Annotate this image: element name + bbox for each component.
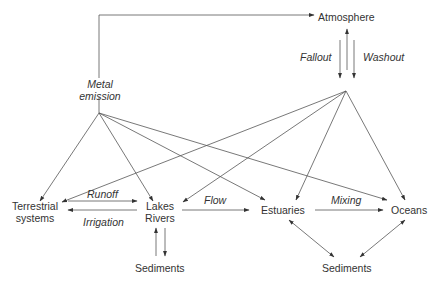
node-oceans: Oceans <box>391 204 427 216</box>
metal-cycle-diagram: Atmosphere Fallout Washout Metal emissio… <box>0 0 438 283</box>
diagram-edges <box>0 0 438 283</box>
edge-label-washout: Washout <box>363 51 404 63</box>
node-metal-emission-line2: emission <box>72 90 128 102</box>
node-estuaries: Estuaries <box>261 204 305 216</box>
edge-label-mixing: Mixing <box>331 194 361 206</box>
edge-label-irrigation: Irrigation <box>83 216 124 228</box>
node-atmosphere: Atmosphere <box>318 11 375 23</box>
node-lakes-line2: Rivers <box>140 212 180 224</box>
node-terrestrial-line1: Terrestrial <box>6 200 64 212</box>
node-metal-emission-line1: Metal <box>72 78 128 90</box>
edge-label-fallout: Fallout <box>300 51 332 63</box>
node-sediments-estuaries-oceans: Sediments <box>322 262 372 274</box>
node-lakes-line1: Lakes <box>140 200 180 212</box>
node-sediments-lakes: Sediments <box>135 262 185 274</box>
edge-label-flow: Flow <box>204 194 226 206</box>
node-terrestrial-line2: systems <box>6 212 64 224</box>
edge-label-runoff: Runoff <box>87 188 118 200</box>
